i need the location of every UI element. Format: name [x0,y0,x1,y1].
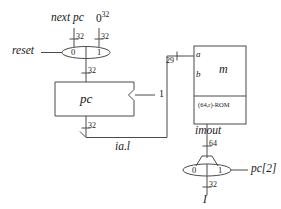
label-zero-superscript: 32 [102,10,110,19]
bitwidth-label-nextpc: 32 [76,33,84,41]
label-ia-l: ia.l [115,141,130,153]
mux-top-input-1: 1 [97,48,101,57]
label-instruction-out: I [203,194,207,206]
pc-register-box [55,82,134,116]
label-next-pc: next pc [51,12,84,24]
rom-name-label: m [219,63,228,75]
rom-port-b-label: b [196,70,201,79]
label-zero-constant: 032 [96,11,109,24]
bitwidth-label-imout: 64 [209,140,217,148]
rom-kind-label: (64,r)-ROM [198,102,230,109]
label-pc-register: pc [80,92,92,105]
label-imout: imout [195,125,221,137]
label-pc-select: pc[2] [251,163,277,175]
wire-layer [0,0,281,209]
hardware-block-diagram: next pc 032 32 32 reset 0 1 32 pc 1 32 i… [0,0,281,209]
wire-bend-tick [80,132,86,138]
mux-bottom-input-1: 1 [218,166,222,175]
bitwidth-label-zeroconst: 32 [101,33,109,41]
bitwidth-label-romaddr: 29 [166,57,174,65]
label-reset: reset [12,45,34,57]
rom-port-a-label: a [196,50,201,59]
bitwidth-label-pcout: 32 [88,122,96,130]
rom-block-outer [194,46,246,124]
bitwidth-label-muxout: 32 [88,67,96,75]
mux-top-input-0: 0 [71,48,75,57]
label-clock-one: 1 [159,89,164,99]
bitwidth-label-instr: 32 [209,181,217,189]
mux-bottom-input-0: 0 [192,166,196,175]
